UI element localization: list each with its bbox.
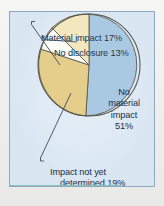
- slice-label-material-impact: Material impact 17%: [41, 33, 122, 44]
- center-label-line2: material: [102, 98, 146, 109]
- leader-elbow-impact-not-yet: [41, 158, 45, 161]
- slice-label-no-material-impact: No material impact 51%: [102, 87, 146, 133]
- slice-label-no-disclosure: No disclosure 13%: [54, 48, 129, 59]
- center-label-line1: No: [102, 87, 146, 98]
- center-label-line3: impact: [102, 110, 146, 121]
- page-background: Material impact 17% No disclosure 13% Im…: [0, 0, 164, 206]
- leader-elbow-material-impact: [32, 22, 36, 25]
- pie-chart-panel: Material impact 17% No disclosure 13% Im…: [9, 11, 155, 187]
- slice-label-impact-not-yet-line1: Impact not yet: [50, 167, 106, 177]
- slice-label-impact-not-yet-determined: Impact not yet determined 19%: [50, 167, 125, 187]
- slice-label-impact-not-yet-line2: determined 19%: [50, 178, 125, 187]
- center-label-line4: 51%: [102, 121, 146, 132]
